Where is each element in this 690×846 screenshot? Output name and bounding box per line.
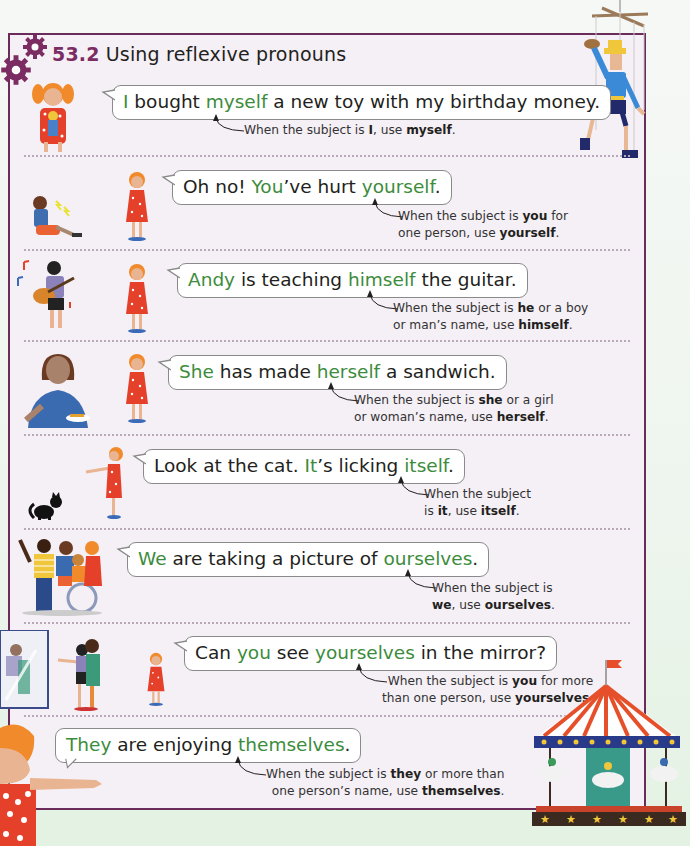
page-title: 53.2Using reflexive pronouns <box>52 43 346 65</box>
note-text: When the subject is <box>388 674 512 688</box>
boy-with-guitar-illustration <box>14 258 78 330</box>
sentence-text: a new toy with my birthday money. <box>267 91 600 112</box>
note-text: . <box>452 123 456 137</box>
carousel-illustration: ★★★★★★ <box>530 656 686 826</box>
sentence-text: Oh no! <box>183 176 252 197</box>
note-text: When the subject <box>424 487 531 501</box>
gear-icon <box>0 54 32 86</box>
sentence-text: . <box>448 455 454 476</box>
hurt-child-illustration <box>26 195 86 241</box>
note-bold-word: himself <box>518 318 569 332</box>
note-text: or more than <box>421 767 504 781</box>
note-line-2: we, use ourselves. <box>432 597 555 614</box>
note-line-1: When the subject is you for <box>398 208 568 225</box>
sentence-text: has made <box>214 361 317 382</box>
note-text: , use <box>452 598 485 612</box>
note-text: or woman’s name, use <box>354 410 497 424</box>
bubble-tail <box>161 173 175 187</box>
speech-bubble: They are enjoying themselves. <box>55 728 361 763</box>
row-divider <box>24 528 630 530</box>
sentence-text: in the mirror? <box>415 642 546 663</box>
children-at-mirror-illustration <box>56 636 104 712</box>
note-line-1: When the subject is he or a boy <box>393 300 588 317</box>
girl-in-red-dress-illustration <box>124 170 150 242</box>
note-text: or man’s name, use <box>393 318 518 332</box>
note-text: or a boy <box>534 301 588 315</box>
bubble-tail <box>64 757 78 771</box>
note-bold-word: yourself <box>500 226 556 240</box>
row-divider <box>24 340 630 342</box>
note-line-2: or woman’s name, use herself. <box>354 409 554 426</box>
girl-in-red-dress-illustration <box>124 262 150 334</box>
note-text: than one person, use <box>382 691 515 705</box>
mirror-illustration <box>0 630 50 710</box>
pointer-arrow-icon <box>234 756 268 780</box>
speech-bubble: Andy is teaching himself the guitar. <box>177 263 528 298</box>
rule-note: When the subject is I, use myself. <box>244 122 456 139</box>
bubble-tail <box>157 358 171 372</box>
subject-word: You <box>252 176 284 197</box>
note-text: , use <box>373 123 406 137</box>
note-bold-word: she <box>478 393 502 407</box>
note-bold-word: you <box>522 209 547 223</box>
svg-text:★: ★ <box>668 813 678 826</box>
group-selfie-illustration <box>16 536 108 616</box>
note-line-1: When the subject is <box>432 580 555 597</box>
sentence-text: see <box>271 642 315 663</box>
rule-note: When the subject is they or more than on… <box>266 766 504 800</box>
note-text: When the subject is <box>244 123 368 137</box>
note-bold-word: ourselves <box>485 598 551 612</box>
svg-text:★: ★ <box>540 813 550 826</box>
bubble-tail <box>166 266 180 280</box>
svg-text:★: ★ <box>644 813 654 826</box>
sentence-text: the guitar. <box>416 269 517 290</box>
note-line-1: When the subject is she or a girl <box>354 392 554 409</box>
black-cat-illustration <box>26 490 66 520</box>
svg-text:★: ★ <box>618 813 628 826</box>
note-bold-word: they <box>390 767 421 781</box>
sentence-text: Look at the cat. <box>154 455 304 476</box>
speech-bubble: Oh no! You’ve hurt yourself. <box>172 170 452 205</box>
note-line-2: or man’s name, use himself. <box>393 317 588 334</box>
note-text: or a girl <box>503 393 554 407</box>
sentence-text: is teaching <box>235 269 348 290</box>
reflexive-pronoun: myself <box>206 91 268 112</box>
subject-word: They <box>66 734 111 755</box>
bubble-tail <box>101 88 115 102</box>
section-title: Using reflexive pronouns <box>106 43 347 65</box>
note-text: When the subject is <box>393 301 517 315</box>
reflexive-pronoun: herself <box>317 361 380 382</box>
note-bold-word: itself <box>481 504 516 518</box>
reflexive-pronoun: himself <box>348 269 416 290</box>
note-text: When the subject is <box>432 581 553 595</box>
rule-note: When the subject is he or a boy or man’s… <box>393 300 588 334</box>
speech-bubble: I bought myself a new toy with my birthd… <box>112 85 611 120</box>
note-text: is <box>424 504 438 518</box>
note-line-1: When the subject is they or more than <box>266 766 504 783</box>
reflexive-pronoun: itself <box>404 455 448 476</box>
note-text: for <box>547 209 568 223</box>
note-bold-word: it <box>438 504 448 518</box>
reflexive-pronoun: yourselves <box>315 642 415 663</box>
sentence-text: Can <box>195 642 237 663</box>
rule-note: When the subject is it, use itself. <box>424 486 531 520</box>
bubble-tail <box>132 452 146 466</box>
note-text: When the subject is <box>266 767 390 781</box>
woman-with-sandwich-illustration <box>22 350 92 428</box>
note-text: one person’s name, use <box>272 784 422 798</box>
sentence-text: a sandwich. <box>380 361 496 382</box>
reflexive-pronoun: ourselves <box>384 548 473 569</box>
row-divider <box>24 434 630 436</box>
note-text: . <box>545 410 549 424</box>
rule-note: When the subject is we, use ourselves. <box>432 580 555 614</box>
sentence-text: . <box>435 176 441 197</box>
reflexive-pronoun: yourself <box>362 176 435 197</box>
sentence-text: are enjoying <box>111 734 238 755</box>
note-text: . <box>551 598 555 612</box>
note-line-2: one person, use yourself. <box>398 225 568 242</box>
subject-word: Andy <box>188 269 235 290</box>
sentence-text: . <box>345 734 351 755</box>
row-divider <box>24 622 630 624</box>
note-bold-word: themselves <box>422 784 501 798</box>
note-text: When the subject is <box>398 209 522 223</box>
